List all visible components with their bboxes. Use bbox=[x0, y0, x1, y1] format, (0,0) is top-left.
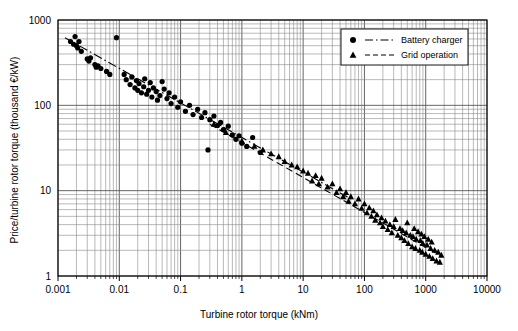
data-point-circle bbox=[187, 103, 192, 108]
data-point-circle bbox=[183, 109, 188, 114]
data-point-triangle bbox=[313, 172, 319, 178]
legend-marker-circle bbox=[350, 37, 356, 43]
data-point-triangle bbox=[316, 181, 322, 187]
data-point-circle bbox=[154, 89, 159, 94]
scatter-plot-svg: 0.0010.010.11101001000100001101001000 Ba… bbox=[0, 0, 518, 331]
data-point-triangle bbox=[361, 200, 367, 206]
x-tick-label: 1000 bbox=[415, 284, 438, 295]
data-point-circle bbox=[142, 76, 147, 81]
chart-container: 0.0010.010.11101001000100001101001000 Ba… bbox=[0, 0, 518, 331]
data-point-circle bbox=[146, 88, 151, 93]
data-point-triangle bbox=[268, 150, 274, 156]
data-point-triangle bbox=[276, 153, 282, 159]
y-tick-label: 1 bbox=[45, 271, 51, 282]
data-point-circle bbox=[172, 94, 177, 99]
data-point-circle bbox=[162, 86, 167, 91]
y-tick-label: 1000 bbox=[29, 15, 52, 26]
data-point-circle bbox=[139, 90, 144, 95]
data-point-circle bbox=[167, 90, 172, 95]
x-tick-label: 10000 bbox=[473, 284, 501, 295]
data-point-circle bbox=[211, 113, 216, 118]
data-point-circle bbox=[127, 82, 132, 87]
y-tick-label: 10 bbox=[40, 185, 52, 196]
x-tick-label: 10 bbox=[298, 284, 310, 295]
data-point-circle bbox=[226, 124, 231, 129]
data-point-triangle bbox=[355, 196, 361, 202]
data-point-circle bbox=[250, 135, 255, 140]
y-tick-label: 100 bbox=[34, 100, 51, 111]
x-tick-label: 0.01 bbox=[110, 284, 130, 295]
data-point-circle bbox=[76, 39, 81, 44]
data-point-circle bbox=[72, 34, 77, 39]
data-point-triangle bbox=[260, 147, 266, 153]
x-axis-label: Turbine rotor torque (kNm) bbox=[0, 309, 518, 320]
data-point-circle bbox=[199, 115, 204, 120]
data-point-triangle bbox=[348, 193, 354, 199]
data-point-circle bbox=[164, 96, 169, 101]
data-point-triangle bbox=[329, 181, 335, 187]
data-point-circle bbox=[190, 112, 195, 117]
data-point-circle bbox=[230, 132, 235, 137]
data-point-circle bbox=[202, 110, 207, 115]
data-point-circle bbox=[195, 107, 200, 112]
data-point-circle bbox=[160, 79, 165, 84]
data-point-circle bbox=[157, 93, 162, 98]
data-point-circle bbox=[168, 101, 173, 106]
legend-label: Battery charger bbox=[401, 35, 463, 45]
data-point-triangle bbox=[294, 163, 300, 169]
data-points bbox=[68, 34, 445, 265]
y-axis-label-wrapper: Price/turbine rotor torque (thousand €/k… bbox=[8, 30, 22, 270]
data-point-triangle bbox=[378, 214, 384, 220]
axis-ticks bbox=[58, 276, 487, 281]
data-point-circle bbox=[178, 99, 183, 104]
x-tick-label: 100 bbox=[356, 284, 373, 295]
data-point-circle bbox=[149, 94, 154, 99]
data-point-circle bbox=[244, 144, 249, 149]
data-point-circle bbox=[114, 35, 119, 40]
data-point-circle bbox=[218, 120, 223, 125]
data-point-triangle bbox=[343, 189, 349, 195]
data-point-circle bbox=[141, 84, 146, 89]
data-point-triangle bbox=[366, 204, 372, 210]
data-point-circle bbox=[122, 72, 127, 77]
data-point-circle bbox=[205, 147, 210, 152]
data-point-circle bbox=[88, 55, 93, 60]
data-point-circle bbox=[175, 105, 180, 110]
data-point-circle bbox=[148, 80, 153, 85]
x-tick-label: 0.1 bbox=[174, 284, 188, 295]
data-point-circle bbox=[98, 66, 103, 71]
x-tick-label: 0.001 bbox=[45, 284, 70, 295]
data-point-triangle bbox=[392, 216, 398, 222]
data-point-circle bbox=[79, 49, 84, 54]
data-point-triangle bbox=[404, 219, 410, 225]
data-point-circle bbox=[207, 117, 212, 122]
data-point-triangle bbox=[337, 185, 343, 191]
data-point-circle bbox=[155, 98, 160, 103]
data-point-triangle bbox=[318, 175, 324, 181]
x-tick-label: 1 bbox=[239, 284, 245, 295]
data-point-circle bbox=[124, 77, 129, 82]
data-point-circle bbox=[107, 72, 112, 77]
legend: Battery chargerGrid operation bbox=[341, 29, 468, 65]
legend-label: Grid operation bbox=[401, 50, 458, 60]
data-point-circle bbox=[136, 81, 141, 86]
data-point-circle bbox=[236, 133, 241, 138]
data-point-circle bbox=[129, 74, 134, 79]
y-axis-label: Price/turbine rotor torque (thousand €/k… bbox=[8, 30, 22, 270]
